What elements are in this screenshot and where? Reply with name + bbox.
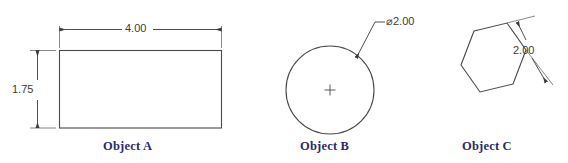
edge-dimension-line-lower-segment	[532, 58, 546, 82]
object-b-label: Object B	[300, 139, 349, 154]
circle-diameter-dimension-text: ⌀2.00	[386, 15, 414, 28]
edge-dimension-line-upper-segment	[518, 23, 527, 41]
object-c-group	[461, 16, 553, 92]
hexagon-outline	[461, 23, 526, 92]
rectangle-outline	[60, 51, 222, 129]
object-c-label: Object C	[462, 139, 512, 154]
object-a-label: Object A	[103, 139, 152, 154]
rectangle-height-dimension-text: 1.75	[12, 83, 33, 95]
hexagon-edge-dimension-text: 2.00	[513, 44, 534, 56]
diameter-leader-line	[357, 22, 376, 58]
object-a-group	[30, 26, 222, 128]
edge-extension-line-upper	[507, 16, 535, 23]
rectangle-width-dimension-text: 4.00	[125, 22, 146, 34]
object-b-group	[286, 22, 385, 134]
